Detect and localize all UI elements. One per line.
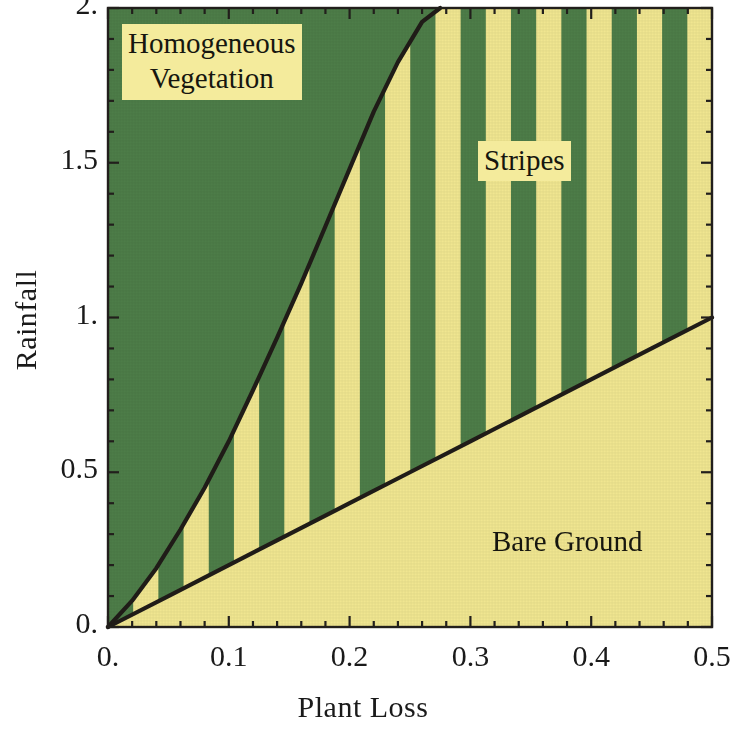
x-tick-label: 0.2	[305, 639, 395, 673]
y-tick-label: 2.	[30, 0, 98, 21]
region-label-homogeneous-vegetation: Homogeneous Vegetation	[122, 24, 302, 100]
x-tick-label: 0.3	[425, 639, 515, 673]
region-label-stripes: Stripes	[478, 141, 571, 181]
stripe-bar	[712, 8, 726, 627]
y-tick-label: 0.5	[30, 451, 98, 485]
x-tick-label: 0.5	[667, 639, 734, 673]
region-label-bare-ground: Bare Ground	[486, 522, 649, 562]
x-tick-label: 0.1	[184, 639, 274, 673]
y-tick-label: 1.	[30, 297, 98, 331]
x-tick-label: 0.4	[546, 639, 636, 673]
x-axis-label: Plant Loss	[0, 690, 726, 724]
y-tick-label: 1.5	[30, 142, 98, 176]
y-tick-label: 0.	[30, 606, 98, 640]
x-tick-label: 0.	[63, 639, 153, 673]
